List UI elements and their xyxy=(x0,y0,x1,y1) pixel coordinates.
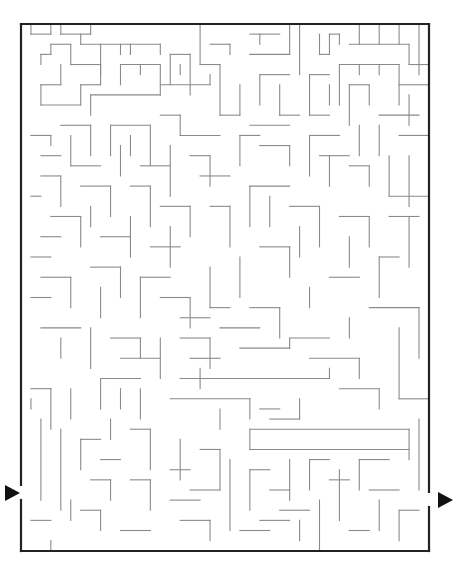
entrance-arrow-icon xyxy=(5,485,20,501)
maze-board xyxy=(0,0,473,571)
exit-arrow-icon xyxy=(438,492,453,508)
maze-walls xyxy=(31,24,429,551)
maze-outer-border xyxy=(21,24,429,551)
